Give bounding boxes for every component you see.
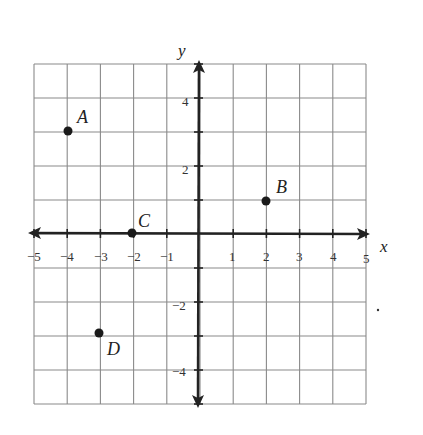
x-tick-label: −1 [160, 249, 174, 264]
y-tick-label: 2 [182, 162, 189, 177]
point-d [95, 329, 104, 338]
x-tick-label: −5 [27, 249, 41, 264]
x-tick-label: 3 [296, 249, 303, 264]
x-tick-label: 4 [330, 249, 337, 264]
x-axis-label: x [379, 237, 388, 256]
x-tick-label: −2 [127, 249, 141, 264]
point-c [128, 229, 137, 238]
y-tick-label: −2 [172, 298, 186, 313]
x-tick-label: −3 [94, 249, 108, 264]
point-a [64, 127, 73, 136]
x-tick-label: −4 [60, 249, 74, 264]
axes: y x [28, 41, 388, 408]
point-a-label: A [76, 107, 89, 127]
point-b-label: B [276, 177, 287, 197]
y-tick-label: 4 [182, 94, 189, 109]
point-b [262, 197, 271, 206]
coordinate-plane: y x −5 −4 −3 −2 −1 1 2 3 4 5 4 2 −2 −4 A… [0, 0, 423, 435]
point-d-label: D [106, 339, 120, 359]
y-axis [198, 64, 199, 404]
x-tick-label: 1 [229, 249, 236, 264]
y-tick-label: −4 [172, 364, 186, 379]
point-c-label: C [138, 211, 151, 231]
x-tick-label: 5 [363, 251, 370, 266]
y-axis-label: y [176, 41, 186, 60]
stray-dot [377, 309, 379, 311]
x-tick-label: 2 [263, 249, 270, 264]
